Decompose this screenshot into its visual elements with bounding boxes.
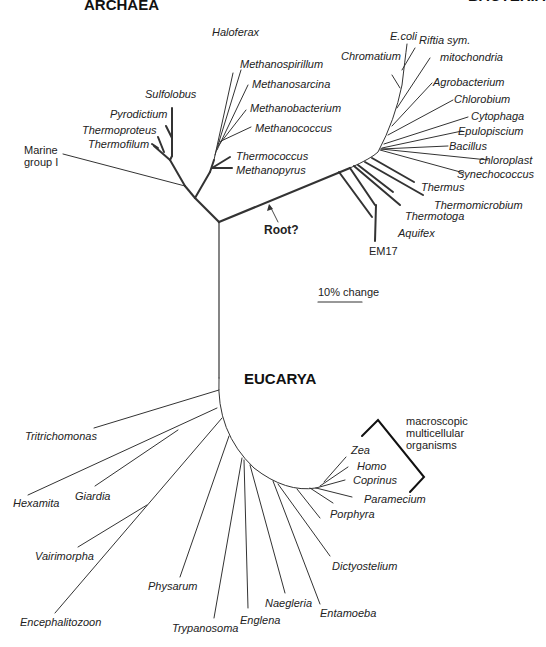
taxon-label: Thermoproteus bbox=[82, 124, 157, 136]
taxon-label: mitochondria bbox=[440, 51, 503, 63]
taxon-label: Chromatium bbox=[341, 50, 401, 62]
taxon-label: Physarum bbox=[148, 580, 198, 592]
taxon-label: Pyrodictium bbox=[110, 108, 167, 120]
taxon-label: Hexamita bbox=[13, 497, 59, 509]
taxon-label: Riftia sym. bbox=[419, 34, 470, 46]
taxon-label: Vairimorpha bbox=[35, 550, 94, 562]
em17-label: EM17 bbox=[369, 245, 398, 257]
taxon-label: Bacillus bbox=[449, 140, 487, 152]
taxon-label: Trypanosoma bbox=[172, 622, 238, 634]
bracket-label: macroscopic multicellular organisms bbox=[406, 415, 468, 451]
taxon-label: Methanobacterium bbox=[250, 102, 341, 114]
taxon-label: Entamoeba bbox=[320, 607, 376, 619]
bracket-label-line1: macroscopic bbox=[406, 415, 468, 427]
marine-group-label-line2: group I bbox=[24, 156, 58, 168]
scale-bar-label: 10% change bbox=[318, 286, 379, 298]
taxon-label: Naegleria bbox=[265, 597, 312, 609]
bacteria-title: BACTERIA bbox=[468, 0, 546, 4]
marine-group-label-line1: Marine bbox=[24, 144, 58, 156]
taxon-label: Sulfolobus bbox=[145, 88, 196, 100]
taxon-label: Methanopyrus bbox=[236, 164, 306, 176]
taxon-label: Thermofilum bbox=[88, 138, 149, 150]
taxon-label: Cytophaga bbox=[471, 110, 524, 122]
taxon-label: Coprinus bbox=[353, 474, 397, 486]
taxon-label: Englena bbox=[240, 614, 280, 626]
taxon-label: Tritrichomonas bbox=[25, 430, 97, 442]
taxon-label: Synechococcus bbox=[457, 168, 534, 180]
taxon-label: Zea bbox=[351, 444, 370, 456]
taxon-label: chloroplast bbox=[479, 154, 532, 166]
taxon-label: Agrobacterium bbox=[433, 76, 505, 88]
eucarya-title: EUCARYA bbox=[244, 370, 316, 387]
taxon-label: Aquifex bbox=[398, 227, 435, 239]
taxon-label: E.coli bbox=[390, 30, 417, 42]
taxon-label: Epulopiscium bbox=[458, 125, 523, 137]
taxon-label: Thermus bbox=[421, 181, 464, 193]
taxon-label: Thermococcus bbox=[236, 150, 308, 162]
taxon-label: Dictyostelium bbox=[332, 560, 397, 572]
taxon-label: Paramecium bbox=[364, 493, 426, 505]
taxon-label: Chlorobium bbox=[454, 93, 510, 105]
taxon-label: Methanospirillum bbox=[240, 58, 323, 70]
taxon-label: Porphyra bbox=[330, 508, 375, 520]
taxon-label: Thermotoga bbox=[405, 210, 464, 222]
taxon-label: Encephalitozoon bbox=[20, 616, 101, 628]
taxon-label: Methanococcus bbox=[255, 122, 332, 134]
root-label: Root? bbox=[264, 224, 299, 236]
taxon-label: Haloferax bbox=[212, 26, 259, 38]
taxon-label: Homo bbox=[357, 460, 386, 472]
taxon-label: Giardia bbox=[75, 490, 110, 502]
taxon-label: Methanosarcina bbox=[252, 78, 330, 90]
bracket-label-line3: organisms bbox=[406, 439, 468, 451]
archaea-title: ARCHAEA bbox=[84, 0, 159, 13]
bracket-label-line2: multicellular bbox=[406, 427, 468, 439]
